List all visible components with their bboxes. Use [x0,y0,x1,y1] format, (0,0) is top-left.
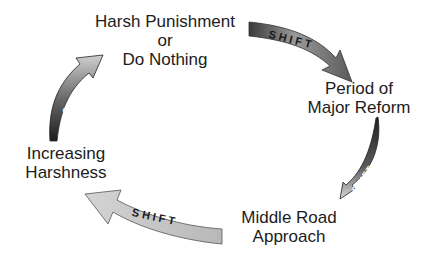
shift-arrow-right: SHIFT [340,117,379,199]
node-increasing-harshness: Increasing Harshness [14,144,118,182]
node-harsh-line2: or [80,31,250,50]
node-increasing-line1: Increasing [14,144,118,163]
node-harsh-line1: Harsh Punishment [80,12,250,31]
node-middle-road: Middle Road Approach [228,208,350,246]
node-harsh-line3: Do Nothing [80,50,250,69]
cycle-diagram: SHIFT SHIFT SHIFT SHIFT Harsh Punishment… [0,0,436,265]
node-increasing-line2: Harshness [14,163,118,182]
node-major-reform: Period of Major Reform [296,79,422,117]
node-reform-line2: Major Reform [296,98,422,117]
node-middle-line2: Approach [228,227,350,246]
node-reform-line1: Period of [296,79,422,98]
shift-arrow-top: SHIFT [249,22,352,82]
shift-arrow-bottom: SHIFT [85,190,222,244]
node-harsh-punishment: Harsh Punishment or Do Nothing [80,12,250,69]
node-middle-line1: Middle Road [228,208,350,227]
